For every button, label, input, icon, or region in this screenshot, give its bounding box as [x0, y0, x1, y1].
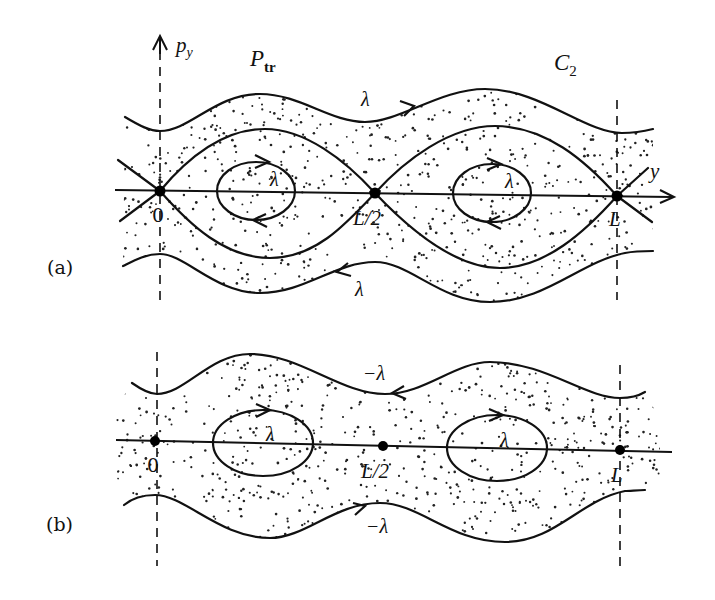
panel-label-a: (a) [47, 256, 73, 278]
separatrix-lower-a [160, 191, 652, 268]
panel-b: 0 L/2 L −λ λ λ −λ (b) [46, 349, 672, 566]
outer-top-orbit-b [132, 354, 645, 398]
phase-portrait-figure: py Ptr C2 y 0 L/2 L λ λ λ λ (a) 0 L/2 L … [0, 0, 715, 600]
horizontal-axis-line-b [116, 440, 672, 452]
point-label-L-half-a: L/2 [352, 206, 382, 230]
fixed-point-L-a [612, 191, 623, 202]
orbit-label-outer-bottom-a: λ [354, 278, 364, 300]
c2-label: C2 [554, 50, 577, 79]
py-axis-label: py [174, 33, 194, 60]
fixed-point-L-half-b [378, 441, 388, 451]
flow-arrow-icon [353, 503, 365, 515]
point-label-L-half-b: L/2 [360, 459, 390, 483]
fixed-point-L-b [615, 445, 625, 455]
point-label-L-a: L [608, 207, 621, 231]
orbit-label-right-island-a: λ [504, 170, 514, 192]
flow-arrow-icon [337, 263, 351, 276]
y-axis-label: y [648, 159, 660, 183]
fixed-point-L-half-a [370, 188, 381, 199]
panel-a: py Ptr C2 y 0 L/2 L λ λ λ λ (a) [47, 33, 674, 306]
orbit-label-left-island-a: λ [269, 168, 279, 190]
separatrix-left-stub-upper [118, 160, 160, 191]
point-label-0-b: 0 [147, 454, 159, 476]
p-tr-label: Ptr [249, 46, 276, 75]
orbit-label-right-island-b: λ [499, 429, 509, 451]
orbit-label-outer-bottom-b: −λ [366, 515, 388, 537]
fixed-point-0-b [150, 436, 160, 446]
orbit-label-outer-top-b: −λ [363, 362, 385, 384]
y-axis-line [115, 190, 672, 197]
point-label-0-a: 0 [152, 204, 164, 226]
fixed-point-0-a [155, 186, 166, 197]
panel-label-b: (b) [46, 513, 73, 535]
outer-top-orbit-a [125, 89, 653, 133]
point-label-L-b: L [610, 463, 623, 487]
orbit-label-left-island-b: λ [265, 423, 275, 445]
orbit-label-outer-top-a: λ [360, 88, 370, 110]
